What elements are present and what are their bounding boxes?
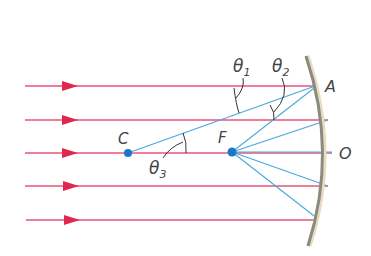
concave-mirror (306, 56, 323, 246)
reflected-ray-2 (232, 120, 328, 152)
arrow-icon (64, 215, 80, 225)
label-theta2: θ2 (272, 56, 289, 79)
theta3-arc (183, 133, 186, 153)
reflected-ray-1 (232, 85, 318, 152)
arrow-icon (63, 181, 79, 191)
arrow-icon (62, 115, 78, 125)
label-theta3: θ3 (149, 158, 166, 181)
label-F: F (218, 129, 227, 147)
label-A: A (324, 77, 336, 96)
label-O: O (339, 144, 352, 163)
point-F (228, 148, 237, 157)
theta2-arc (270, 105, 274, 120)
label-C: C (118, 130, 129, 148)
point-C (124, 149, 132, 157)
theta1-leader (236, 78, 243, 98)
arrow-icon (62, 81, 78, 91)
mirror-diagram: C F A O θ1 θ2 θ3 (0, 0, 371, 256)
arrowheads (62, 81, 80, 225)
reflected-ray-4 (232, 152, 328, 186)
theta3-leader (163, 142, 183, 158)
label-theta1: θ1 (233, 56, 250, 79)
arrow-icon (62, 148, 78, 158)
theta1-arc (234, 88, 239, 113)
theta2-leader (274, 78, 285, 112)
